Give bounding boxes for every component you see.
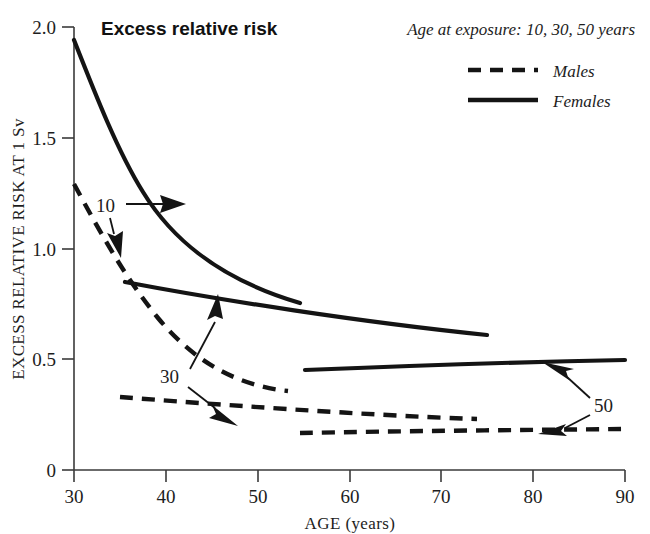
x-tick-label-30: 30 xyxy=(65,486,84,507)
chart-title: Excess relative risk xyxy=(101,18,278,39)
annotation-50: 50 xyxy=(538,362,613,436)
annotation-50-arrowhead-females xyxy=(542,362,574,380)
x-tick-label-60: 60 xyxy=(341,486,360,507)
x-tick-label-40: 40 xyxy=(157,486,176,507)
chart-canvas: 2.0 1.5 1.0 0.5 0 EXCESS RELATIVE RISK A… xyxy=(0,0,650,534)
series-females-age-10 xyxy=(74,40,300,303)
series-males-age-50 xyxy=(300,429,625,433)
annotation-10-arrow-males xyxy=(110,218,114,234)
x-tick-label-90: 90 xyxy=(616,486,635,507)
y-axis: 2.0 1.5 1.0 0.5 0 EXCESS RELATIVE RISK A… xyxy=(9,17,74,481)
y-tick-label-0.5: 0.5 xyxy=(32,349,56,370)
annotation-50-label: 50 xyxy=(594,395,613,416)
annotation-10-arrowhead-females xyxy=(160,195,186,213)
data-series-group xyxy=(74,40,625,433)
y-tick-label-1.5: 1.5 xyxy=(32,128,56,149)
annotation-30-arrowhead-males xyxy=(209,405,238,426)
x-axis: 30 40 50 60 70 80 90 AGE (years) xyxy=(65,470,635,533)
annotation-30: 30 xyxy=(160,294,238,426)
series-males-age-30 xyxy=(120,397,477,419)
annotation-10-label: 10 xyxy=(96,195,115,216)
y-tick-label-1.0: 1.0 xyxy=(32,239,56,260)
legend-label-males: Males xyxy=(552,62,595,81)
legend-label-females: Females xyxy=(552,92,611,111)
y-tick-label-0: 0 xyxy=(47,460,57,481)
x-tick-label-50: 50 xyxy=(249,486,268,507)
series-females-age-50 xyxy=(305,360,625,370)
x-axis-title: AGE (years) xyxy=(305,514,396,533)
annotation-30-arrow-males xyxy=(188,387,215,408)
x-tick-label-70: 70 xyxy=(432,486,451,507)
chart-figure: 2.0 1.5 1.0 0.5 0 EXCESS RELATIVE RISK A… xyxy=(0,0,650,534)
series-females-age-30 xyxy=(125,282,487,335)
annotation-50-arrow-females xyxy=(567,377,590,398)
annotation-50-arrow-males xyxy=(565,415,590,428)
legend-title: Age at exposure: 10, 30, 50 years xyxy=(406,20,635,39)
y-tick-label-2.0: 2.0 xyxy=(32,17,56,38)
legend: Age at exposure: 10, 30, 50 years Males … xyxy=(406,20,635,111)
x-tick-label-80: 80 xyxy=(524,486,543,507)
y-axis-title: EXCESS RELATIVE RISK AT 1 Sv xyxy=(9,118,28,380)
annotation-30-label: 30 xyxy=(160,366,179,387)
